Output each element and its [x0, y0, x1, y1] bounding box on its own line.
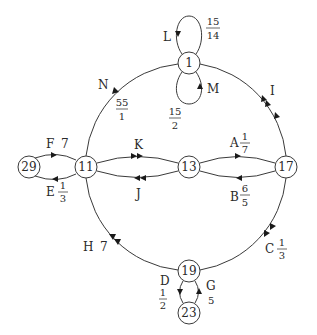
edge-label-H: H	[83, 240, 93, 254]
weight-M-den: 2	[172, 120, 178, 131]
weight-B-num: 6	[242, 183, 248, 194]
weight-F: 7	[61, 137, 69, 151]
weight-L-den: 14	[207, 30, 220, 41]
edge-label-M: M	[207, 82, 219, 96]
node-13-label: 13	[181, 160, 196, 174]
weight-H: 7	[100, 240, 108, 254]
arrow-D	[177, 289, 183, 295]
arrow-G	[196, 288, 202, 294]
edge-label-F: F	[46, 137, 54, 151]
graph-diagram: 1 11 13 17 29 19 23 L 15 14 M 15 2 N 55 …	[0, 0, 317, 335]
node-19-label: 19	[181, 264, 196, 278]
node-1-label: 1	[185, 56, 193, 70]
arrow-K-2	[137, 153, 143, 159]
weight-D-den: 2	[160, 300, 166, 311]
edge-B	[200, 171, 275, 178]
weight-G: 5	[208, 295, 214, 306]
arrow-A	[235, 153, 241, 159]
arrow-B	[236, 175, 242, 181]
arrow-J-1	[134, 175, 140, 181]
node-19: 19	[178, 260, 200, 282]
node-23-label: 23	[181, 306, 196, 320]
edge-label-N: N	[98, 78, 109, 92]
weight-B-den: 5	[242, 197, 248, 208]
edge-L	[176, 16, 201, 54]
edge-I	[200, 64, 286, 156]
weight-L-num: 15	[207, 16, 220, 27]
arrow-N	[112, 87, 119, 94]
arrow-C-2	[264, 230, 270, 237]
edge-label-A: A	[229, 136, 239, 150]
weight-N-den: 1	[119, 111, 125, 122]
edge-label-E: E	[46, 185, 55, 199]
edge-label-C: C	[265, 242, 274, 256]
arrow-I-2	[265, 100, 271, 107]
weight-M-num: 15	[169, 106, 182, 117]
arrow-I-3	[274, 112, 280, 119]
node-1: 1	[178, 52, 200, 74]
node-23: 23	[178, 302, 200, 324]
edge-label-J: J	[134, 187, 141, 201]
weight-N-num: 55	[116, 97, 129, 108]
edge-label-L: L	[163, 30, 171, 44]
edge-label-B: B	[230, 190, 239, 204]
node-17: 17	[275, 156, 297, 178]
node-11: 11	[75, 156, 97, 178]
weight-C-den: 3	[279, 250, 285, 261]
edge-H	[86, 178, 178, 270]
arrow-K-1	[131, 153, 137, 159]
node-11-label: 11	[78, 160, 93, 174]
edge-label-G: G	[206, 279, 216, 293]
arrow-F	[51, 152, 57, 158]
node-29: 29	[18, 156, 40, 178]
weight-E-num: 1	[60, 180, 66, 191]
weight-C-num: 1	[279, 237, 285, 248]
edge-label-K: K	[134, 138, 144, 152]
node-17-label: 17	[278, 160, 293, 174]
arrow-C-1	[270, 223, 276, 230]
edge-label-I: I	[270, 84, 275, 98]
weight-A-num: 1	[242, 131, 248, 142]
edge-label-D: D	[160, 274, 170, 288]
weight-D-num: 1	[160, 287, 166, 298]
node-29-label: 29	[21, 160, 36, 174]
weight-A-den: 7	[242, 144, 248, 155]
arrow-J-2	[140, 175, 146, 181]
arrow-E	[52, 176, 58, 182]
weight-E-den: 3	[60, 193, 66, 204]
node-13: 13	[178, 156, 200, 178]
